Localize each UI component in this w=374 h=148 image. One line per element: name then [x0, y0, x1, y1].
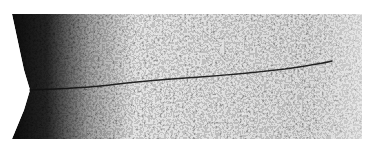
specimen — [12, 14, 362, 139]
micrograph-image — [0, 0, 374, 148]
